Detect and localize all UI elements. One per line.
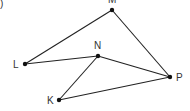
partial-label: ) (0, 0, 3, 9)
point-label-p: P (176, 72, 183, 83)
geometry-diagram: ) MLNPK (0, 0, 190, 111)
point-label-m: M (108, 0, 116, 5)
point-label-l: L (13, 59, 19, 70)
point-m (110, 8, 114, 12)
labels: MLNPK (13, 0, 183, 106)
point-k (57, 98, 61, 102)
point-n (96, 54, 100, 58)
point-l (23, 62, 27, 66)
point-p (168, 75, 172, 79)
segment-mp (112, 10, 170, 77)
point-label-k: K (47, 95, 54, 106)
point-label-n: N (94, 40, 101, 51)
points (23, 8, 172, 102)
segment-np (98, 56, 170, 77)
